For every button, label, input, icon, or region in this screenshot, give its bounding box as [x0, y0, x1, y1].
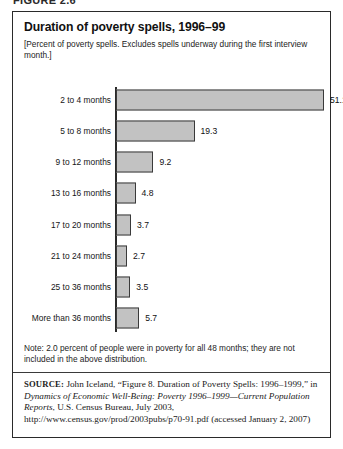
- bar-row: 9 to 12 months9.2: [24, 147, 322, 178]
- bar-row: 2 to 4 months51.1: [24, 84, 322, 115]
- bar-category-label: 5 to 8 months: [24, 126, 111, 136]
- chart-subtitle: [Percent of poverty spells. Excludes spe…: [24, 39, 314, 61]
- chart-title: Duration of poverty spells, 1996–99: [24, 20, 225, 34]
- bar-row: 21 to 24 months2.7: [24, 240, 322, 271]
- bar: [116, 183, 136, 204]
- figure-caption: FIGURE 2.6: [13, 0, 76, 6]
- bar-category-label: 25 to 36 months: [24, 282, 111, 292]
- bar-category-label: 13 to 16 months: [24, 188, 111, 198]
- bar-row: 5 to 8 months19.3: [24, 115, 322, 146]
- bar-value-label: 2.7: [133, 251, 145, 261]
- bar: [116, 89, 324, 110]
- bar-value-label: 51.1: [330, 95, 343, 105]
- figure-box: Duration of poverty spells, 1996–99 [Per…: [12, 11, 331, 438]
- bar-category-label: 21 to 24 months: [24, 251, 111, 261]
- bar-value-label: 19.3: [201, 126, 218, 136]
- bar-row: 17 to 20 months3.7: [24, 209, 322, 240]
- bar: [116, 214, 131, 235]
- source-text-first: John Iceland, “Figure 8. Duration of Pov…: [64, 379, 317, 389]
- bar-row: More than 36 months5.7: [24, 303, 322, 334]
- bar: [116, 120, 195, 141]
- source-text-second: , U.S. Census Bureau, July 2003, http://…: [24, 402, 310, 424]
- bar-value-label: 3.7: [137, 220, 149, 230]
- source-separator: [13, 372, 330, 373]
- chart-note: Note: 2.0 percent of people were in pove…: [24, 343, 318, 366]
- bar-value-label: 3.5: [136, 282, 148, 292]
- bar-category-label: 9 to 12 months: [24, 157, 111, 167]
- bar-value-label: 4.8: [142, 188, 154, 198]
- bar-row: 13 to 16 months4.8: [24, 178, 322, 209]
- bar: [116, 277, 130, 298]
- bar-value-label: 9.2: [159, 157, 171, 167]
- bar-value-label: 5.7: [145, 313, 157, 323]
- bar: [116, 245, 127, 266]
- bar-category-label: 2 to 4 months: [24, 95, 111, 105]
- bar: [116, 152, 153, 173]
- source-label: SOURCE:: [24, 379, 64, 389]
- bar-category-label: More than 36 months: [24, 313, 111, 323]
- bar-chart-plot-area: 2 to 4 months51.15 to 8 months19.39 to 1…: [24, 84, 322, 334]
- source-citation: SOURCE: John Iceland, “Figure 8. Duratio…: [24, 379, 320, 425]
- bar-row: 25 to 36 months3.5: [24, 272, 322, 303]
- bar: [116, 308, 139, 329]
- bar-category-label: 17 to 20 months: [24, 220, 111, 230]
